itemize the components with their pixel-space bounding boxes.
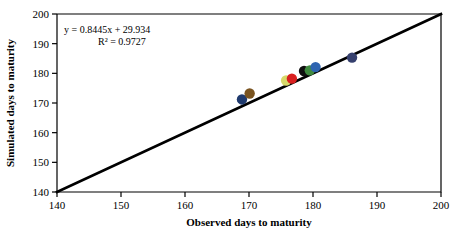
x-axis-title: Observed days to maturity [186, 216, 312, 228]
y-tick-label: 200 [33, 8, 50, 20]
y-tick-label: 190 [33, 38, 50, 50]
scatter-chart: 140150160170180190200 140150160170180190… [0, 0, 461, 242]
data-point [287, 73, 297, 83]
r-squared-label: R² = 0.9727 [98, 36, 146, 47]
data-point [244, 88, 254, 98]
y-tick-label: 150 [33, 156, 50, 168]
y-tick-label: 160 [33, 127, 50, 139]
x-tick-label: 150 [113, 199, 130, 211]
y-tick-label: 170 [33, 97, 50, 109]
x-tick-label: 180 [305, 199, 322, 211]
data-point [310, 62, 320, 72]
y-tick-label: 140 [33, 186, 50, 198]
x-tick-label: 140 [49, 199, 66, 211]
chart-canvas: 140150160170180190200 140150160170180190… [0, 0, 461, 242]
x-tick-label: 200 [433, 199, 450, 211]
y-axis-title: Simulated days to maturity [4, 38, 16, 167]
x-tick-label: 160 [177, 199, 194, 211]
regression-equation-label: y = 0.8445x + 29.934 [64, 24, 150, 35]
y-tick-label: 180 [33, 67, 50, 79]
data-point [347, 52, 357, 62]
x-tick-label: 190 [369, 199, 386, 211]
x-tick-label: 170 [241, 199, 258, 211]
